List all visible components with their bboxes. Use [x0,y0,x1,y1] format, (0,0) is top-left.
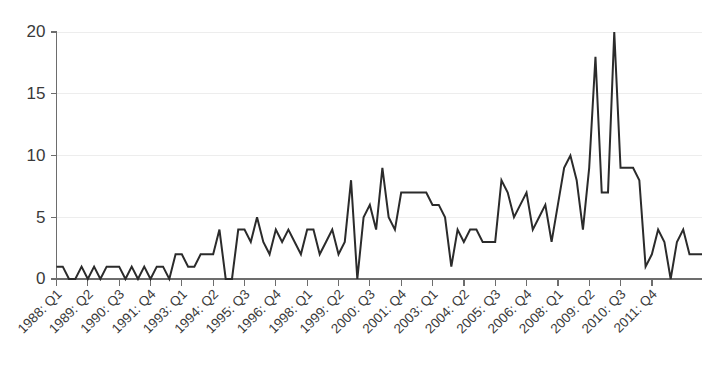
y-tick-label-20: 20 [27,22,46,41]
y-tick-label-0: 0 [36,269,45,288]
line-chart: 05101520 1988: Q11989: Q21990: Q31991: Q… [0,0,719,373]
gridlines [57,32,703,279]
chart-container: 05101520 1988: Q11989: Q21990: Q31991: Q… [0,0,719,373]
y-tick-label-5: 5 [36,208,45,227]
y-axis: 05101520 [27,22,57,288]
x-axis: 1988: Q11989: Q21990: Q31991: Q41993: Q1… [15,279,702,336]
y-tick-label-15: 15 [27,84,46,103]
y-tick-label-10: 10 [27,146,46,165]
